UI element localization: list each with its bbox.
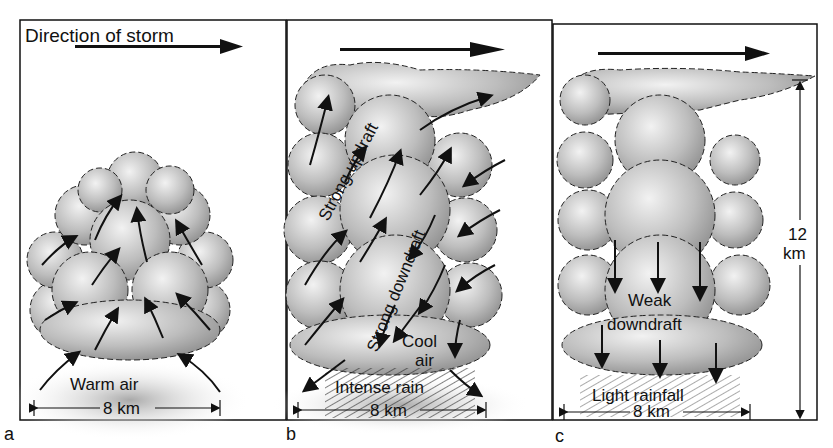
thunderstorm-lifecycle-diagram: Warm air 8 km a Direction of storm xyxy=(0,0,833,448)
weak-downdraft-label-line1: Weak xyxy=(628,291,672,310)
height-label-line1: 12 xyxy=(788,225,807,244)
panel-label-b: b xyxy=(286,424,296,444)
direction-arrows xyxy=(75,39,770,61)
panel-label-a: a xyxy=(4,424,15,444)
direction-arrow-b xyxy=(340,48,475,51)
panel-b: Strong updraft Strong downdraft Cool air… xyxy=(270,62,540,444)
width-label-c: 8 km xyxy=(633,402,670,421)
panel-c: Weak downdraft Light rainfall 8 km 12 km… xyxy=(555,68,815,446)
weak-downdraft-label-line2: downdraft xyxy=(607,315,682,334)
cumulus-cloud xyxy=(27,152,233,360)
cool-air-label-line1: Cool xyxy=(402,332,437,351)
height-label-line2: km xyxy=(783,244,806,263)
direction-of-storm-label: Direction of storm xyxy=(25,25,174,46)
width-label-b: 8 km xyxy=(370,401,407,420)
warm-air-label: Warm air xyxy=(70,375,139,394)
direction-arrow-a xyxy=(75,45,225,48)
width-label-a: 8 km xyxy=(103,399,140,418)
intense-rain-label: Intense rain xyxy=(335,378,424,397)
panel-a: Warm air 8 km a xyxy=(4,152,250,444)
cool-air-label-line2: air xyxy=(415,351,434,370)
dissipating-cloud xyxy=(557,68,815,375)
panel-label-c: c xyxy=(555,426,564,446)
direction-arrow-c xyxy=(598,52,748,55)
